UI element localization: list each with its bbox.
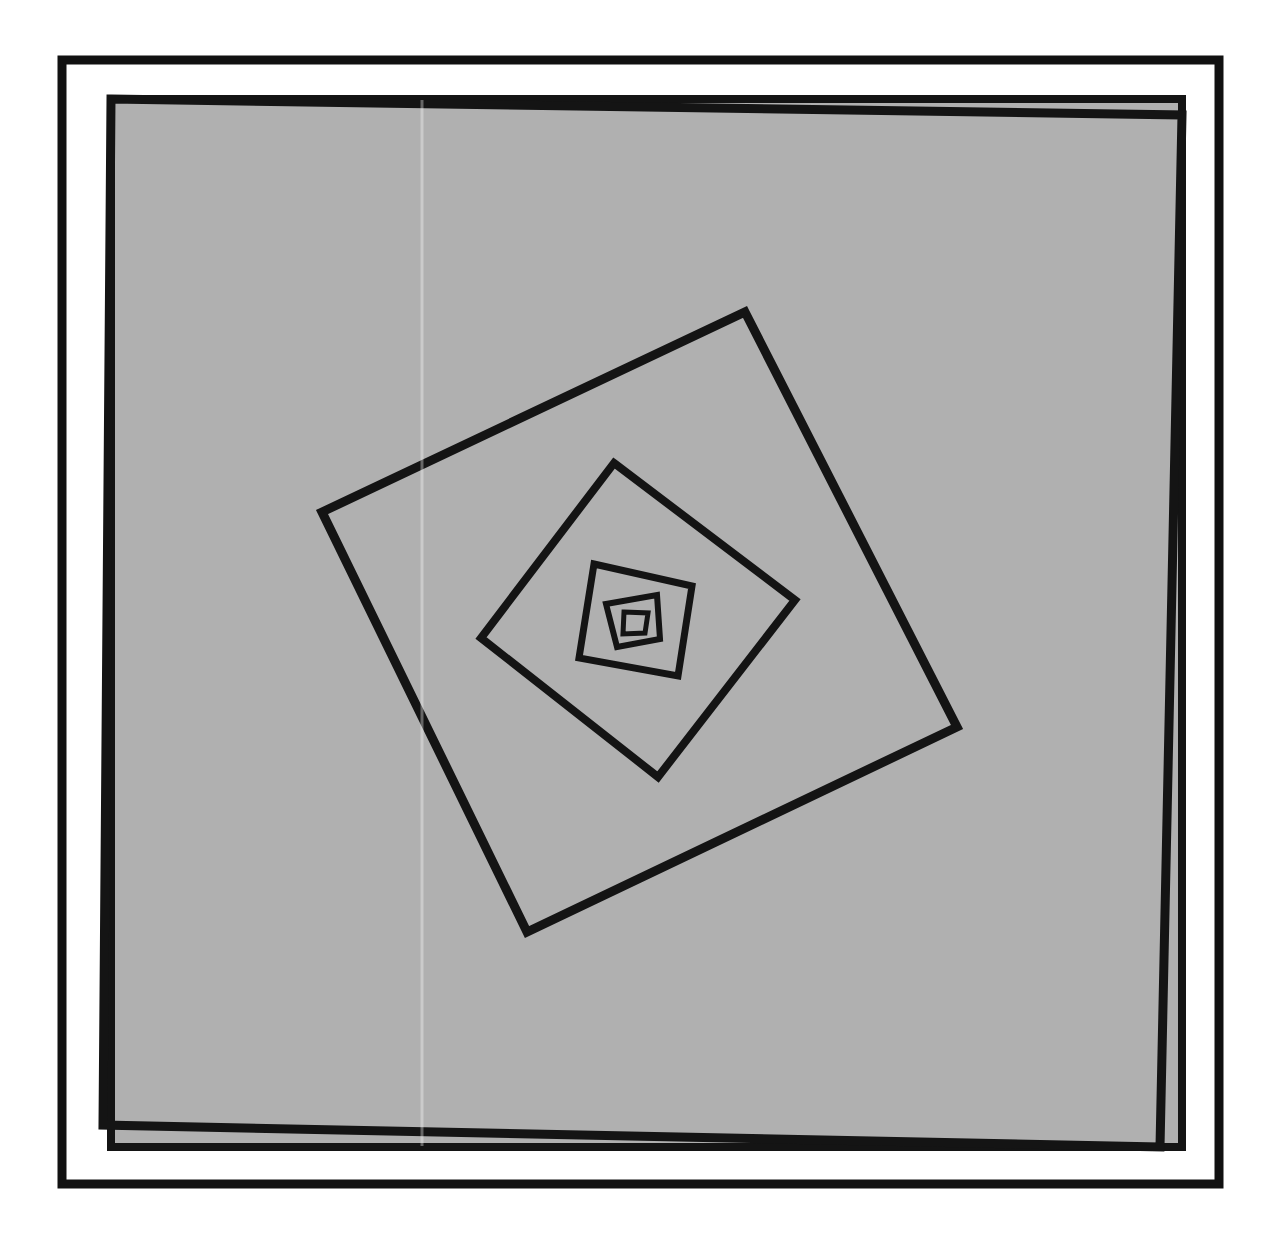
- figure-root: Nested Rotating Quadrilaterals Spiral A …: [0, 0, 1276, 1246]
- nested-quadrilaterals-figure: [0, 0, 1276, 1246]
